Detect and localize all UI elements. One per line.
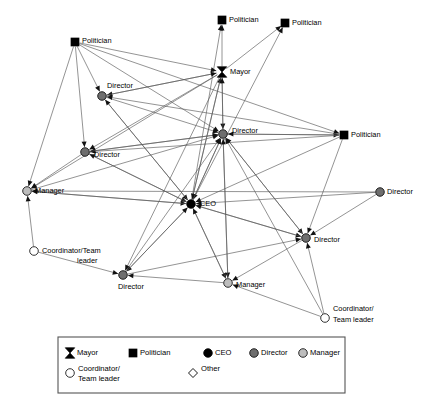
- arrowhead-icon: [112, 270, 118, 275]
- legend-label: Politician: [140, 348, 170, 357]
- node-pol_topright[interactable]: Politician: [281, 18, 322, 27]
- edge: [191, 77, 221, 199]
- node-dir_bottom[interactable]: Director: [118, 271, 144, 291]
- legend-label: Director: [261, 348, 288, 357]
- node-label: Director: [118, 282, 144, 291]
- edge: [106, 97, 218, 133]
- edge: [193, 27, 283, 199]
- legend-item-other: Other: [189, 364, 221, 378]
- node-dir_right[interactable]: Director: [302, 234, 341, 244]
- manager-marker-icon: [23, 187, 32, 196]
- node-label: Politician: [229, 15, 259, 24]
- ceo-legend-icon: [204, 349, 213, 358]
- legend-item-coordinator: Coordinator/Team leader: [66, 364, 121, 383]
- edge: [196, 205, 302, 237]
- edge: [307, 139, 342, 233]
- node-label-line2: Team leader: [333, 315, 374, 324]
- edge: [77, 46, 100, 91]
- node-coord_left[interactable]: Coordinator/Teamleader: [30, 246, 101, 265]
- edge: [226, 138, 303, 234]
- edge: [28, 46, 74, 186]
- politician-marker-icon: [218, 16, 226, 24]
- politician-marker-icon: [340, 131, 348, 139]
- edge: [226, 26, 281, 69]
- arrowhead-icon: [307, 227, 312, 233]
- politician-legend-icon: [129, 349, 137, 357]
- node-dir_center[interactable]: Director: [219, 126, 259, 138]
- edge: [32, 135, 219, 190]
- edge: [126, 208, 187, 272]
- nodes-layer: PoliticianPoliticianPoliticianMayorDirec…: [23, 15, 414, 324]
- edge: [223, 139, 230, 278]
- director-marker-icon: [119, 271, 128, 280]
- legend-label: CEO: [215, 348, 232, 357]
- node-label: Politician: [292, 18, 322, 27]
- edges-layer: [26, 25, 376, 316]
- arrowhead-icon: [295, 238, 301, 243]
- edge: [233, 284, 321, 316]
- node-manager_bottom[interactable]: Manager: [224, 279, 266, 289]
- edge: [89, 154, 186, 202]
- legend-item-manager: Manager: [299, 348, 341, 357]
- legend-label: Manager: [310, 348, 340, 357]
- node-label: Mayor: [230, 67, 251, 76]
- node-label: Manager: [35, 186, 65, 195]
- edge: [220, 78, 225, 130]
- node-mayor[interactable]: Mayor: [217, 67, 251, 78]
- node-label: Coordinator/: [333, 304, 375, 313]
- edge: [79, 44, 219, 131]
- legend-item-politician: Politician: [129, 348, 170, 357]
- manager-marker-icon: [224, 279, 233, 288]
- node-ceo[interactable]: CEO: [187, 199, 217, 208]
- director-marker-icon: [376, 188, 385, 197]
- edge: [306, 243, 324, 314]
- edge: [90, 133, 218, 152]
- director-marker-icon: [219, 130, 228, 139]
- legend-item-director: Director: [250, 348, 288, 357]
- politician-marker-icon: [71, 38, 79, 46]
- node-manager_left[interactable]: Manager: [23, 186, 65, 195]
- node-pol_right[interactable]: Politician: [340, 130, 381, 139]
- arrowhead-icon: [221, 139, 226, 144]
- edge: [196, 192, 375, 206]
- coordinator-marker-icon: [321, 314, 330, 323]
- arrowhead-icon: [211, 67, 217, 72]
- arrowhead-icon: [306, 243, 311, 249]
- politician-marker-icon: [281, 19, 289, 27]
- arrowhead-icon: [105, 100, 110, 106]
- director-marker-icon: [81, 148, 90, 157]
- node-label: CEO: [200, 199, 216, 208]
- legend-label: Mayor: [77, 348, 99, 357]
- edge: [193, 209, 226, 279]
- legend-label: Coordinator/: [78, 364, 121, 373]
- network-diagram-figure: PoliticianPoliticianPoliticianMayorDirec…: [0, 0, 433, 405]
- node-label: Director: [387, 187, 413, 196]
- manager-legend-icon: [299, 349, 308, 358]
- edge: [31, 155, 81, 189]
- director-marker-icon: [302, 234, 311, 243]
- node-label-line2: leader: [77, 256, 98, 265]
- node-dir_farright[interactable]: Director: [376, 187, 414, 196]
- legend-label: Other: [201, 364, 220, 373]
- mayor-marker-icon: [217, 67, 227, 78]
- arrowhead-icon: [26, 196, 31, 202]
- coordinator-marker-icon: [30, 247, 39, 256]
- coordinator-legend-icon: [66, 369, 75, 378]
- legend-label-line2: Team leader: [78, 374, 120, 383]
- legend-item-mayor: Mayor: [65, 348, 98, 359]
- edge: [125, 77, 219, 271]
- director-marker-icon: [98, 92, 107, 101]
- node-coord_right[interactable]: Coordinator/Team leader: [321, 304, 375, 324]
- graph-canvas: PoliticianPoliticianPoliticianMayorDirec…: [0, 0, 433, 405]
- node-pol_top[interactable]: Politician: [218, 15, 259, 24]
- node-dir_left[interactable]: Director: [81, 148, 121, 159]
- edge: [26, 196, 34, 246]
- node-label: Politician: [82, 36, 112, 45]
- legend-layer: MayorPoliticianCEODirectorManagerCoordin…: [58, 337, 345, 393]
- node-label: Manager: [236, 280, 266, 289]
- director-legend-icon: [250, 349, 259, 358]
- edge: [232, 240, 302, 280]
- node-pol_left[interactable]: Politician: [71, 36, 112, 46]
- node-label: Director: [314, 235, 340, 244]
- node-label: Politician: [351, 130, 381, 139]
